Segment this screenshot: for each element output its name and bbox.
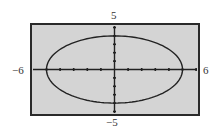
calculator-graph <box>0 0 215 129</box>
xmax-label: 6 <box>203 65 209 76</box>
ymax-label: 5 <box>111 10 117 21</box>
xmin-label: −6 <box>12 65 24 76</box>
ymin-label: −5 <box>106 117 118 128</box>
